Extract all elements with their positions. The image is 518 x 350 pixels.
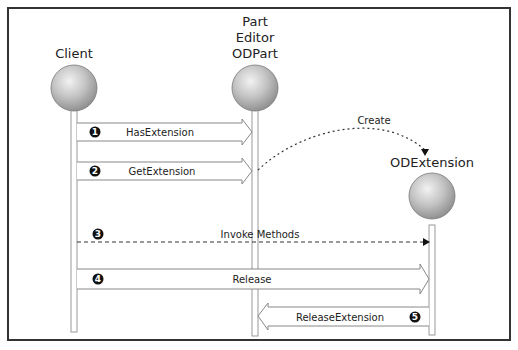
odextension-sphere-icon — [409, 173, 455, 219]
svg-text:2: 2 — [92, 166, 98, 176]
message-invoke-methods-label: Invoke Methods — [221, 229, 300, 240]
svg-text:4: 4 — [95, 274, 101, 284]
participant-odpart-line2: Editor — [236, 30, 275, 45]
message-hasextension-label: HasExtension — [126, 127, 194, 138]
message-getextension-arrow: 2 GetExtension — [77, 158, 252, 184]
participant-client-label: Client — [55, 46, 93, 61]
message-releaseextension-arrow: 5 ReleaseExtension — [258, 303, 429, 330]
message-release-label: Release — [232, 274, 271, 285]
message-create-label: Create — [357, 115, 390, 126]
participant-odpart-line3: ODPart — [232, 46, 278, 61]
svg-text:1: 1 — [92, 127, 98, 137]
message-getextension-label: GetExtension — [129, 166, 196, 177]
odpart-sphere-icon — [232, 65, 278, 111]
participant-odextension-label: ODExtension — [390, 155, 474, 170]
message-release-arrow: 4 Release — [77, 264, 429, 294]
lifeline-odextension — [429, 225, 435, 335]
message-releaseextension-label: ReleaseExtension — [296, 312, 384, 323]
svg-text:5: 5 — [412, 312, 418, 322]
client-sphere-icon — [51, 65, 97, 111]
svg-text:3: 3 — [95, 229, 101, 239]
message-hasextension-arrow: 1 HasExtension — [77, 119, 252, 145]
lifeline-odpart — [252, 108, 258, 336]
sequence-diagram: Client Part Editor ODPart ODExtension 1 … — [0, 0, 518, 350]
lifeline-client — [71, 108, 77, 332]
participant-odpart-line1: Part — [242, 14, 268, 29]
